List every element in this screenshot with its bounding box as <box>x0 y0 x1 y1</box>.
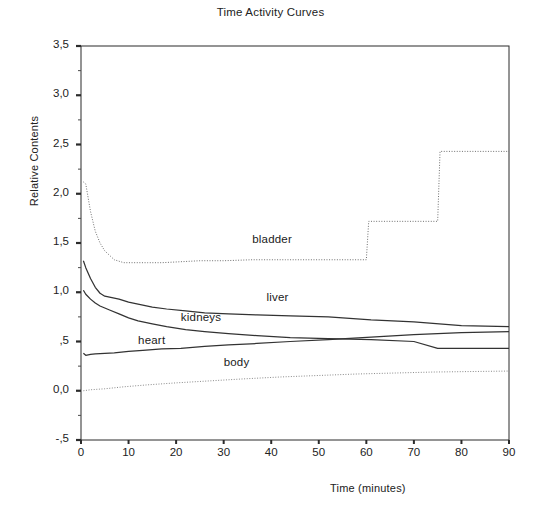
y-tick-label: -,5 <box>35 432 69 444</box>
plot-area <box>0 0 541 520</box>
y-tick-label: 0,0 <box>35 383 69 395</box>
series-label-heart: heart <box>138 334 165 346</box>
series-line-bladder <box>83 151 509 262</box>
series-label-bladder: bladder <box>252 233 292 245</box>
y-tick-label: 2,0 <box>35 186 69 198</box>
x-tick-label: 70 <box>401 446 427 458</box>
y-tick-label: 1,0 <box>35 284 69 296</box>
y-tick-label: 2,5 <box>35 137 69 149</box>
x-tick-label: 50 <box>306 446 332 458</box>
x-tick-label: 90 <box>496 446 522 458</box>
x-axis-title: Time (minutes) <box>330 482 406 494</box>
x-tick-label: 0 <box>68 446 94 458</box>
x-tick-label: 20 <box>163 446 189 458</box>
x-tick-label: 40 <box>258 446 284 458</box>
y-tick-label: 3,0 <box>35 87 69 99</box>
chart-figure: Time Activity Curves Relative Contents -… <box>0 0 541 520</box>
series-label-liver: liver <box>266 291 288 303</box>
x-tick-label: 30 <box>211 446 237 458</box>
series-label-body: body <box>224 356 250 368</box>
x-tick-label: 60 <box>353 446 379 458</box>
plot-frame <box>81 46 509 440</box>
y-tick-label: 3,5 <box>35 38 69 50</box>
x-tick-label: 10 <box>116 446 142 458</box>
series-label-kidneys: kidneys <box>181 311 221 323</box>
series-line-body <box>83 371 509 391</box>
x-tick-label: 80 <box>448 446 474 458</box>
y-tick-label: ,5 <box>35 334 69 346</box>
series-line-liver <box>83 261 509 327</box>
y-tick-label: 1,5 <box>35 235 69 247</box>
